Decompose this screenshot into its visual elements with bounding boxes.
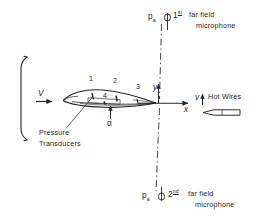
mic-top-ordinal: 1st <box>173 9 182 20</box>
microphone-icon-bottom <box>158 187 164 201</box>
pressure-transducer-leader <box>66 97 93 129</box>
schematic-drawing <box>0 0 257 219</box>
mic-top-caption-line2: microphone <box>196 22 236 30</box>
angle-of-attack-label: α <box>107 119 112 129</box>
pressure-transducers-label-line1: Pressure <box>39 129 69 137</box>
hot-wire-velocity-label: v <box>195 93 199 103</box>
mic-top-caption-line1: far field <box>189 11 214 19</box>
mic-bottom-caption-line2: microphone <box>195 201 235 209</box>
figure-canvas: V 1 2 3 4 α Pressure Transducers y x v H… <box>0 0 257 219</box>
hot-wire-probe-icon <box>203 110 240 115</box>
sensor-label-1: 1 <box>89 75 93 83</box>
mic-bottom-ordinal: 2nd <box>168 188 179 199</box>
microphone-icon-top <box>164 13 170 30</box>
mic-top-pressure-symbol: pa <box>148 12 156 23</box>
microphone-axis-line <box>156 24 162 192</box>
hot-wires-label: Hot Wires <box>208 93 241 101</box>
coordinate-axes <box>138 84 188 103</box>
freestream-velocity-label: V <box>38 89 44 99</box>
y-axis-label: y <box>153 83 157 93</box>
sensor-label-4: 4 <box>103 92 107 100</box>
x-axis-label: x <box>184 105 188 115</box>
airfoil-section <box>63 90 156 108</box>
mic-bottom-caption-line1: far field <box>188 190 213 198</box>
sensor-label-3: 3 <box>136 83 140 91</box>
sensor-label-2: 2 <box>113 77 117 85</box>
mic-bottom-pressure-symbol: pa <box>142 191 150 202</box>
nozzle-exit-lip <box>21 56 27 141</box>
pressure-transducers-label-line2: Transducers <box>39 140 81 148</box>
